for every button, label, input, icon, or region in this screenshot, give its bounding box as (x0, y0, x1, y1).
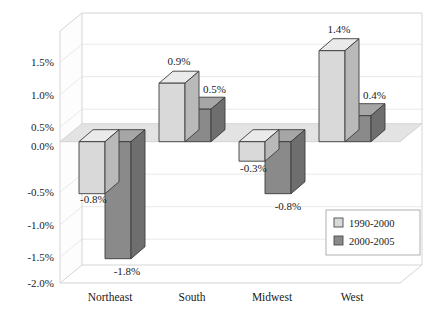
value-label-northeast-1990-2000: -0.8% (80, 193, 107, 205)
y-tick-label: -0.5% (27, 186, 54, 198)
y-tick-label: -1.0% (27, 219, 54, 231)
y-tick-label: 1.0% (31, 89, 54, 101)
value-label-south-2000-2005: 0.5% (203, 83, 226, 95)
value-label-midwest-1990-2000: -0.3% (240, 162, 267, 174)
bar-front-face (159, 83, 185, 142)
chart-container: 1.5% 1.0% 0.5% 0.0% -0.5% -1.0% -1.5% -2… (0, 0, 441, 315)
y-tick-label: 0.0% (31, 140, 54, 152)
bar-west-1990-2000 (319, 39, 359, 142)
bar-northeast-1990-2000 (79, 130, 119, 194)
value-label-midwest-2000-2005: -0.8% (275, 200, 302, 212)
value-label-northeast-2000-2005: -1.8% (114, 265, 141, 277)
legend-swatch-2000-2005 (334, 236, 343, 245)
legend-swatch-1990-2000 (334, 218, 343, 227)
bar-south-1990-2000 (159, 71, 199, 142)
y-tick-label: 1.5% (31, 56, 54, 68)
bar-side-face (131, 130, 145, 259)
y-tick-label: -1.5% (27, 251, 54, 263)
y-tick-label: 0.5% (31, 121, 54, 133)
bar-front-face (319, 51, 345, 142)
bar-side-face (345, 39, 359, 142)
bar-chart-3d: 1.5% 1.0% 0.5% 0.0% -0.5% -1.0% -1.5% -2… (0, 0, 441, 315)
value-label-south-1990-2000: 0.9% (168, 55, 191, 67)
legend-label-1990-2000: 1990-2000 (349, 218, 395, 229)
legend-label-2000-2005: 2000-2005 (349, 236, 395, 247)
category-label-northeast: Northeast (88, 291, 134, 303)
y-tick-label: -2.0% (27, 277, 54, 289)
value-label-west-2000-2005: 0.4% (363, 89, 386, 101)
category-label-midwest: Midwest (252, 291, 293, 303)
category-label-west: West (341, 291, 365, 303)
bar-front-face (239, 142, 265, 162)
bar-front-face (79, 142, 105, 194)
category-label-south: South (179, 291, 206, 303)
value-label-west-1990-2000: 1.4% (328, 23, 351, 35)
legend[interactable]: 1990-2000 2000-2005 (326, 210, 420, 255)
bar-side-face (185, 71, 199, 142)
